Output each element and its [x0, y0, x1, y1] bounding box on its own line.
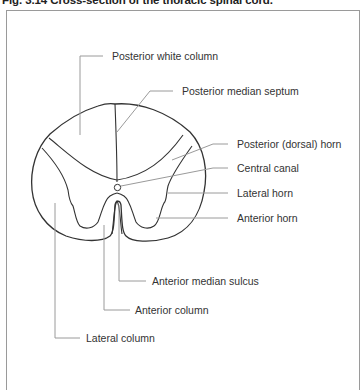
- leader-posterior-white-column: [80, 56, 103, 135]
- label-posterior-dorsal-horn: Posterior (dorsal) horn: [237, 138, 341, 150]
- label-posterior-median-septum: Posterior median septum: [182, 85, 299, 97]
- label-lateral-column: Lateral column: [86, 332, 155, 344]
- label-anterior-horn: Anterior horn: [237, 212, 298, 224]
- label-posterior-white-column: Posterior white column: [112, 50, 218, 62]
- right-grey-matter-outline: [117, 146, 192, 228]
- label-anterior-column: Anterior column: [135, 304, 209, 316]
- leader-central-canal: [121, 168, 228, 186]
- leader-lateral-column: [55, 203, 80, 338]
- posterior-median-septum-line: [115, 104, 117, 182]
- label-central-canal: Central canal: [237, 162, 299, 174]
- left-grey-matter-outline: [42, 148, 117, 228]
- label-anterior-median-sulcus: Anterior median sulcus: [152, 275, 259, 287]
- leader-posterior-median-septum: [117, 91, 173, 132]
- label-lateral-horn: Lateral horn: [237, 187, 293, 199]
- leader-anterior-median-sulcus: [119, 205, 146, 281]
- central-canal-circle: [114, 184, 120, 190]
